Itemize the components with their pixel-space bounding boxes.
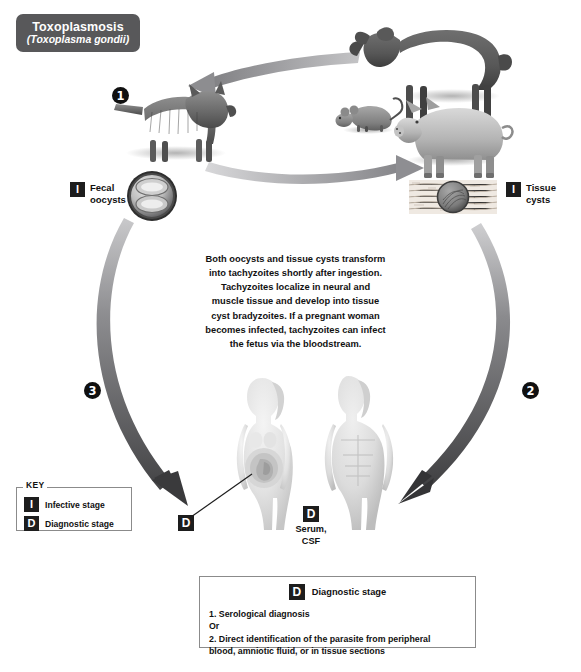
- step-number-2: 2: [522, 382, 539, 399]
- serum-csf-text: Serum, CSF: [288, 524, 334, 547]
- title-badge: Toxoplasmosis (Toxoplasma gondii): [16, 14, 140, 52]
- center-note-line-3: Tachyzoites localize in neural and: [221, 282, 370, 292]
- key-item-diagnostic: D Diagnostic stage: [24, 516, 131, 531]
- tissue-cyst-micrograph: [409, 180, 497, 214]
- diagnostic-line-1: 1. Serological diagnosis: [209, 608, 466, 620]
- tissue-cysts-label: I Tissue cysts: [506, 182, 556, 206]
- diagnostic-stage-icon-2: D: [303, 506, 319, 522]
- diagnostic-stage-icon-key: D: [24, 516, 39, 531]
- infective-stage-icon: I: [70, 182, 85, 197]
- step-number-1: 1: [112, 87, 129, 104]
- key-item-infective-label: Infective stage: [45, 500, 105, 510]
- serum-csf-line-2: CSF: [302, 536, 320, 546]
- diagnostic-stage-box: D Diagnostic stage 1. Serological diagno…: [199, 576, 476, 648]
- infective-stage-icon-2: I: [506, 182, 521, 197]
- fecal-oocysts-line-1: Fecal: [90, 182, 114, 193]
- page-title: Toxoplasmosis: [32, 20, 123, 34]
- diagnostic-stage-icon: D: [178, 515, 194, 531]
- diagnostic-stage-icon-box: D: [289, 584, 305, 600]
- sheep-illustration: [349, 27, 512, 125]
- key-legend-title: KEY: [23, 480, 47, 490]
- pig-illustration: [394, 97, 512, 178]
- tissue-cysts-line-2: cysts: [526, 194, 550, 205]
- diagram-canvas: Toxoplasmosis (Toxoplasma gondii) 1 2 3 …: [0, 0, 581, 672]
- diagnostic-box-heading-text: Diagnostic stage: [312, 587, 386, 597]
- arrow-tissue-cysts-to-humans: [398, 223, 510, 504]
- tissue-cysts-text: Tissue cysts: [526, 182, 556, 206]
- diagnostic-line-2: Or: [209, 620, 466, 632]
- center-note-line-5: cyst bradyzoites. If a pregnant woman: [211, 311, 379, 321]
- key-legend-list: I Infective stage D Diagnostic stage: [17, 488, 131, 531]
- center-note-line-4: muscle tissue and develop into tissue: [212, 296, 379, 306]
- diagnostic-box-heading: D Diagnostic stage: [209, 584, 466, 600]
- serum-csf-label: D Serum, CSF: [288, 504, 334, 547]
- key-item-infective: I Infective stage: [24, 497, 131, 512]
- serum-csf-line-1: Serum,: [295, 524, 326, 534]
- diagnostic-line-3: 2. Direct identification of the parasite…: [209, 633, 466, 645]
- center-note-line-2: into tachyzoites shortly after ingestion…: [209, 268, 382, 278]
- tissue-cysts-line-1: Tissue: [526, 182, 556, 193]
- center-explanatory-note: Both oocysts and tissue cysts transform …: [188, 252, 403, 351]
- diagnostic-box-lines: 1. Serological diagnosis Or 2. Direct id…: [209, 608, 466, 658]
- oocyst-micrograph: [127, 171, 177, 221]
- arrow-animals-to-cat: [188, 52, 360, 98]
- arrow-oocysts-to-humans: [97, 218, 188, 506]
- leader-line-d-to-fetus: [191, 474, 252, 517]
- center-note-line-6: becomes infected, tachyzoites can infect: [205, 325, 385, 335]
- fecal-oocysts-text: Fecal oocysts: [90, 182, 126, 206]
- mouse-illustration: [335, 98, 402, 134]
- center-note-line-7: the fetus via the bloodstream.: [230, 339, 362, 349]
- key-item-diagnostic-label: Diagnostic stage: [45, 519, 114, 529]
- cat-illustration: [114, 81, 236, 162]
- arrow-cat-to-tissue-cysts: [205, 155, 424, 184]
- fecal-oocysts-line-2: oocysts: [90, 194, 126, 205]
- infective-stage-icon-key: I: [24, 497, 39, 512]
- page-subtitle: (Toxoplasma gondii): [27, 34, 129, 46]
- fecal-oocysts-label: I Fecal oocysts: [70, 182, 126, 206]
- step-number-3: 3: [84, 382, 101, 399]
- diagnostic-line-4: blood, amniotic fluid, or in tissue sect…: [209, 645, 466, 657]
- center-note-line-1: Both oocysts and tissue cysts transform: [206, 254, 386, 264]
- man-illustration: [325, 376, 393, 530]
- pregnant-woman-illustration: [237, 378, 293, 530]
- key-legend-box: KEY I Infective stage D Diagnostic stage: [16, 487, 132, 531]
- fetus-diagnostic-badge: D: [178, 513, 194, 531]
